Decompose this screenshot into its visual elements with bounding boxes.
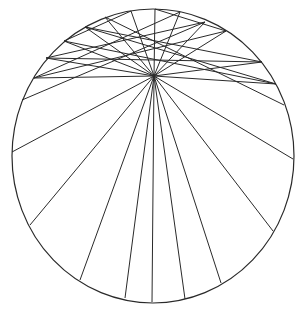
ray-line <box>125 76 154 298</box>
ray-line <box>80 76 154 280</box>
ray-line <box>154 9 155 76</box>
chord-line <box>46 58 154 76</box>
ray-line <box>12 76 154 152</box>
focal-point <box>153 75 155 77</box>
chord-line <box>85 27 262 62</box>
ray-line <box>152 76 154 302</box>
ray-line <box>154 76 185 299</box>
ray-line <box>154 76 221 283</box>
ray-line <box>30 76 154 225</box>
circle-ray-diagram <box>0 0 301 315</box>
ray-line <box>154 76 293 159</box>
ray-line <box>131 11 154 76</box>
chord-line <box>85 27 276 84</box>
ray-line <box>34 76 154 78</box>
rays-to-lower-arc <box>12 76 293 302</box>
upper-chord-net <box>22 9 284 105</box>
